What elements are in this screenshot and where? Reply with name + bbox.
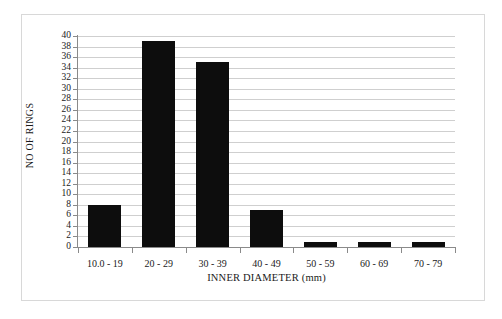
y-axis-tick-mark <box>73 215 78 216</box>
y-axis-tick-label: 2 <box>45 231 71 240</box>
y-axis-tick-label: 24 <box>45 115 71 124</box>
x-axis-tick-mark <box>78 248 79 253</box>
bar <box>412 242 445 247</box>
y-axis-tick-mark <box>73 163 78 164</box>
y-axis-tick-label: 32 <box>45 73 71 82</box>
y-axis-tick-label: 12 <box>45 179 71 188</box>
plot-area <box>78 36 455 247</box>
y-axis-tick-mark <box>73 131 78 132</box>
y-axis-tick-label: 26 <box>45 105 71 114</box>
y-axis-title: NO OF RINGS <box>24 66 35 206</box>
gridline <box>78 68 455 69</box>
bar <box>196 62 229 247</box>
y-axis-tick-mark <box>73 184 78 185</box>
y-axis-tick-label: 14 <box>45 168 71 177</box>
y-axis-tick-mark <box>73 99 78 100</box>
y-axis-tick-labels: 0246810121416182022242628303234363840 <box>41 0 71 319</box>
gridline <box>78 152 455 153</box>
x-axis-tick-mark <box>186 248 187 253</box>
y-axis-tick-mark <box>73 68 78 69</box>
gridline <box>78 173 455 174</box>
y-axis-tick-label: 22 <box>45 126 71 135</box>
y-axis-tick-label: 0 <box>45 242 71 251</box>
y-axis-tick-label: 18 <box>45 147 71 156</box>
x-axis-tick-mark <box>240 248 241 253</box>
y-axis-tick-label: 38 <box>45 42 71 51</box>
y-axis-tick-label: 4 <box>45 221 71 230</box>
x-axis-tick-label: 70 - 79 <box>393 258 463 269</box>
y-axis-tick-mark <box>73 236 78 237</box>
gridline <box>78 184 455 185</box>
gridline <box>78 131 455 132</box>
y-axis-tick-mark <box>73 226 78 227</box>
gridline <box>78 57 455 58</box>
gridline <box>78 47 455 48</box>
y-axis-tick-mark <box>73 194 78 195</box>
x-axis-tick-mark <box>401 248 402 253</box>
y-axis-tick-mark <box>73 152 78 153</box>
y-axis-tick-mark <box>73 205 78 206</box>
y-axis-tick-mark <box>73 57 78 58</box>
gridline <box>78 78 455 79</box>
y-axis-tick-label: 36 <box>45 52 71 61</box>
x-axis-title: INNER DIAMETER (mm) <box>78 272 455 283</box>
gridline <box>78 142 455 143</box>
y-axis-tick-mark <box>73 142 78 143</box>
y-axis-tick-label: 28 <box>45 94 71 103</box>
y-axis-tick-label: 30 <box>45 84 71 93</box>
y-axis-tick-mark <box>73 173 78 174</box>
bar-chart-figure: NO OF RINGS 0246810121416182022242628303… <box>0 0 502 319</box>
gridline <box>78 99 455 100</box>
gridline <box>78 163 455 164</box>
y-axis-tick-label: 10 <box>45 189 71 198</box>
y-axis-tick-mark <box>73 78 78 79</box>
y-axis-tick-label: 16 <box>45 158 71 167</box>
bar <box>250 210 283 247</box>
y-axis-tick-label: 34 <box>45 63 71 72</box>
bar <box>358 242 391 247</box>
y-axis-tick-mark <box>73 89 78 90</box>
bar <box>304 242 337 247</box>
y-axis-tick-mark <box>73 47 78 48</box>
gridline <box>78 36 455 37</box>
gridline <box>78 205 455 206</box>
y-axis-tick-mark <box>73 120 78 121</box>
gridline <box>78 120 455 121</box>
x-axis-tick-mark <box>347 248 348 253</box>
gridline <box>78 194 455 195</box>
gridline <box>78 89 455 90</box>
y-axis-tick-label: 20 <box>45 137 71 146</box>
y-axis-tick-label: 6 <box>45 210 71 219</box>
y-axis-tick-mark <box>73 110 78 111</box>
y-axis-tick-mark <box>73 36 78 37</box>
y-axis-tick-label: 8 <box>45 200 71 209</box>
x-axis-line <box>77 247 456 248</box>
gridline <box>78 110 455 111</box>
x-axis-tick-mark <box>455 248 456 253</box>
y-axis-tick-label: 40 <box>45 31 71 40</box>
x-axis-tick-mark <box>293 248 294 253</box>
bar <box>142 41 175 247</box>
bar <box>88 205 121 247</box>
x-axis-tick-mark <box>132 248 133 253</box>
